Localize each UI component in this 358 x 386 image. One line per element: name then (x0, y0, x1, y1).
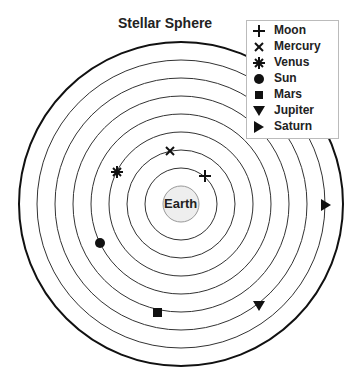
venus-marker (111, 166, 123, 178)
triangle-down-icon (253, 105, 265, 117)
sun-marker (95, 238, 105, 248)
legend-item-mercury: Mercury (247, 39, 338, 55)
circle-icon (253, 73, 265, 85)
moon-marker (199, 170, 211, 182)
legend-item-venus: Venus (247, 55, 338, 71)
triangle-right-icon (253, 121, 265, 133)
plus-icon (253, 25, 265, 37)
square-icon (253, 89, 265, 101)
cross-icon (253, 41, 265, 53)
legend-item-mars: Mars (247, 87, 338, 103)
legend-item-jupiter: Jupiter (247, 103, 338, 119)
legend-item-saturn: Saturn (247, 119, 338, 135)
legend-item-sun: Sun (247, 71, 338, 87)
asterisk-icon (253, 57, 265, 69)
earth-label: Earth (164, 196, 197, 211)
diagram-title: Stellar Sphere (118, 15, 212, 31)
legend: Moon Mercury Venus Sun Mars Jupiter Satu… (246, 20, 339, 139)
legend-item-moon: Moon (247, 23, 338, 39)
mars-marker (153, 308, 162, 317)
saturn-marker (321, 199, 331, 211)
